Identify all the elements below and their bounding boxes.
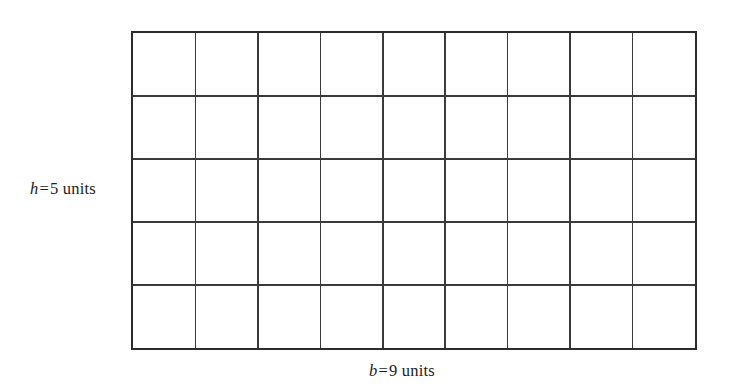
base-equals-sign: = (377, 361, 389, 380)
base-dimension-label: b=9 units (369, 363, 435, 380)
height-equals-sign: = (38, 179, 50, 198)
diagram-canvas: h=5 units b=9 units (0, 0, 729, 391)
grid-rectangle (131, 31, 697, 350)
base-unit: units (402, 361, 435, 380)
base-value: 9 (389, 361, 397, 380)
grid-lines (133, 33, 695, 348)
height-dimension-label: h=5 units (30, 181, 96, 198)
height-unit: units (63, 179, 96, 198)
height-value: 5 (50, 179, 58, 198)
